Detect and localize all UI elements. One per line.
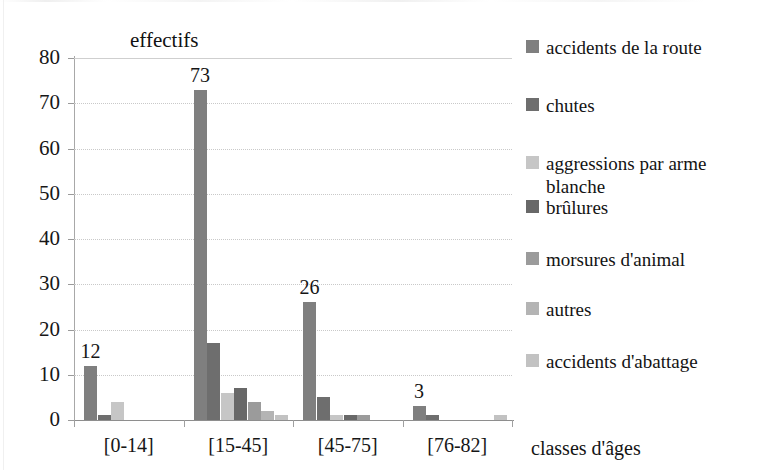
x-axis-line [74, 420, 514, 421]
y-axis-tick [68, 194, 74, 195]
y-axis-tick-label: 60 [39, 138, 60, 159]
bar [261, 411, 274, 420]
bar [275, 415, 288, 420]
scan-artifact-top [0, 0, 766, 2]
legend-swatch-icon [526, 252, 539, 265]
bar [111, 402, 124, 420]
x-axis-tick [74, 420, 75, 427]
bar [494, 415, 507, 420]
bar [248, 402, 261, 420]
legend-item[interactable]: morsures d'animal [526, 248, 685, 271]
bar [344, 415, 357, 420]
legend-label: autres [546, 298, 591, 321]
y-axis-tick-label: 40 [39, 228, 60, 249]
x-axis-tick [403, 420, 404, 427]
x-axis-tick [184, 420, 185, 427]
legend-swatch-icon [526, 354, 539, 367]
y-axis-tick-label: 10 [39, 364, 60, 385]
y-axis-tick-label: 70 [39, 92, 60, 113]
x-axis-tick [293, 420, 294, 427]
y-axis-tick [68, 284, 74, 285]
legend-item[interactable]: chutes [526, 94, 595, 117]
legend-item[interactable]: autres [526, 298, 591, 321]
legend-swatch-icon [526, 98, 539, 111]
x-axis-category-label: [15-45] [184, 434, 294, 456]
legend-item[interactable]: accidents de la route [526, 36, 702, 59]
legend-item[interactable]: brûlures [526, 196, 608, 219]
bar [194, 90, 207, 420]
plot-area: 1273263 [74, 58, 512, 420]
chart-title: effectifs [130, 28, 198, 52]
x-axis-title: classes d'âges [531, 437, 641, 459]
gridline [74, 58, 512, 59]
legend-label: accidents de la route [546, 36, 702, 59]
y-axis-tick-label: 50 [39, 183, 60, 204]
legend-label: brûlures [546, 196, 608, 219]
gridline [74, 330, 512, 331]
y-axis-tick-label: 0 [50, 409, 61, 430]
legend-label: chutes [546, 94, 595, 117]
y-axis-tick [68, 330, 74, 331]
x-axis-tick [512, 420, 513, 427]
bar-value-label: 12 [67, 341, 115, 361]
gridline [74, 194, 512, 195]
legend-label: aggressions par arme blanche [546, 152, 761, 198]
x-axis-category-label: [76-82] [403, 434, 513, 456]
y-axis-labels: 01020304050607080 [0, 0, 70, 470]
y-axis-tick [68, 239, 74, 240]
bar-chart: effectifs 01020304050607080 1273263 [0-1… [0, 0, 766, 470]
bar-value-label: 26 [286, 277, 334, 297]
bar [330, 415, 343, 420]
bar-value-label: 73 [176, 65, 224, 85]
bar [413, 406, 426, 420]
y-axis-tick-label: 30 [39, 273, 60, 294]
bar [98, 415, 111, 420]
bar [221, 393, 234, 420]
legend-swatch-icon [526, 200, 539, 213]
gridline [74, 149, 512, 150]
y-axis-tick [68, 149, 74, 150]
y-axis-tick-label: 80 [39, 47, 60, 68]
legend-item[interactable]: aggressions par arme blanche [526, 152, 761, 198]
gridline [74, 375, 512, 376]
y-axis-tick [68, 103, 74, 104]
bar [357, 415, 370, 420]
bar [207, 343, 220, 420]
x-axis-category-label: [0-14] [74, 434, 184, 456]
y-axis-tick-label: 20 [39, 319, 60, 340]
bar [303, 302, 316, 420]
bar [84, 366, 97, 420]
legend-swatch-icon [526, 156, 539, 169]
x-axis-category-label: [45-75] [293, 434, 403, 456]
gridline [74, 103, 512, 104]
legend-item[interactable]: accidents d'abattage [526, 350, 698, 373]
bar [234, 388, 247, 420]
legend-swatch-icon [526, 302, 539, 315]
gridline [74, 239, 512, 240]
y-axis-tick [68, 58, 74, 59]
bar [317, 397, 330, 420]
legend-label: morsures d'animal [546, 248, 685, 271]
legend-label: accidents d'abattage [546, 350, 698, 373]
bar [426, 415, 439, 420]
legend-swatch-icon [526, 40, 539, 53]
y-axis-tick [68, 375, 74, 376]
bar-value-label: 3 [395, 381, 443, 401]
